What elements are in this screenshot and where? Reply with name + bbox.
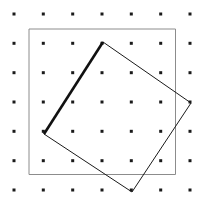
grid-dot	[71, 130, 74, 133]
grid-dot	[159, 159, 162, 162]
grid-dot	[13, 42, 16, 45]
grid-dot	[13, 189, 16, 192]
grid-dot	[42, 42, 45, 45]
grid-dot	[130, 13, 133, 16]
grid-dot	[71, 71, 74, 74]
grid-dot	[42, 13, 45, 16]
grid-dot	[159, 189, 162, 192]
grid-dot	[71, 159, 74, 162]
grid-dot	[71, 189, 74, 192]
grid-dot	[159, 42, 162, 45]
grid-dot	[130, 159, 133, 162]
grid-dot	[42, 159, 45, 162]
grid-dot	[13, 159, 16, 162]
grid-dot	[71, 13, 74, 16]
grid-dot	[101, 71, 104, 74]
grid-dot	[13, 101, 16, 104]
grid-dot	[101, 130, 104, 133]
grid-dot	[189, 189, 192, 192]
grid-dot	[101, 13, 104, 16]
grid-dot	[159, 101, 162, 104]
grid-dot	[189, 13, 192, 16]
grid-dot	[159, 13, 162, 16]
grid-dot	[42, 189, 45, 192]
grid-dot	[13, 130, 16, 133]
grid-dot	[130, 130, 133, 133]
figure-canvas	[0, 0, 203, 204]
grid-dot	[101, 189, 104, 192]
grid-dot	[101, 159, 104, 162]
grid-dot	[71, 42, 74, 45]
grid-dot	[159, 130, 162, 133]
grid-dot	[189, 42, 192, 45]
grid-dot	[189, 130, 192, 133]
grid-dot	[130, 101, 133, 104]
grid-dot	[42, 101, 45, 104]
geometry-diagram	[0, 0, 203, 204]
grid-dot	[71, 101, 74, 104]
grid-dot	[159, 71, 162, 74]
grid-dot	[189, 71, 192, 74]
grid-dot	[101, 101, 104, 104]
grid-dot	[189, 159, 192, 162]
grid-dot	[130, 42, 133, 45]
grid-dot	[130, 71, 133, 74]
grid-dot	[13, 71, 16, 74]
grid-dot	[42, 71, 45, 74]
grid-dot	[13, 13, 16, 16]
